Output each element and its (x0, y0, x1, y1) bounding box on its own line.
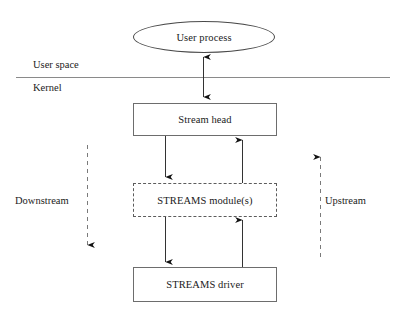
node-streams-driver-label: STREAMS driver (166, 279, 244, 290)
label-upstream: Upstream (325, 196, 366, 207)
node-streams-driver: STREAMS driver (133, 267, 277, 302)
node-user-process: User process (133, 21, 275, 53)
label-user-space: User space (33, 60, 79, 71)
streams-architecture-diagram: User process Stream head STREAMS module(… (0, 0, 401, 321)
node-user-process-label: User process (176, 32, 231, 43)
label-downstream: Downstream (15, 196, 69, 207)
label-kernel: Kernel (33, 83, 62, 94)
node-stream-head: Stream head (133, 103, 277, 136)
node-streams-modules: STREAMS module(s) (133, 183, 277, 217)
node-stream-head-label: Stream head (178, 114, 231, 125)
node-streams-modules-label: STREAMS module(s) (157, 195, 252, 206)
